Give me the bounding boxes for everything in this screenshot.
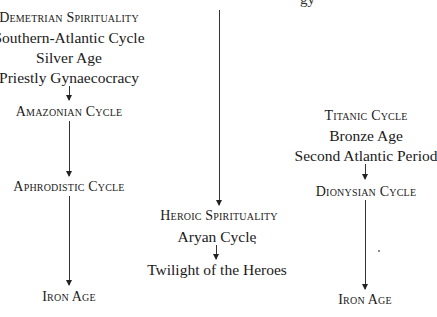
down-arrow-icon <box>219 10 220 205</box>
silver-age-label: Silver Age <box>36 50 102 66</box>
second-atlantic-period-label: Second Atlantic Period <box>295 148 437 164</box>
print-speck <box>254 242 256 244</box>
southern-atlantic-cycle-label: Southern-Atlantic Cycle <box>0 30 145 46</box>
priestly-gynaecocracy-label: Priestly Gynaecocracy <box>0 70 139 86</box>
twilight-of-the-heroes-label: Twilight of the Heroes <box>147 262 287 278</box>
iron-age-label-right: Iron Age <box>338 293 392 307</box>
down-arrow-icon <box>69 196 70 285</box>
aphrodistic-cycle-label: Aphrodistic Cycle <box>13 180 124 194</box>
down-arrow-icon <box>69 86 70 100</box>
bronze-age-label: Bronze Age <box>329 128 403 144</box>
aryan-cycle-label: Aryan Cycle <box>178 229 257 245</box>
cut-off-text: gy <box>300 0 315 8</box>
down-arrow-icon <box>365 164 366 179</box>
iron-age-label-left: Iron Age <box>42 290 96 304</box>
down-arrow-icon <box>69 121 70 176</box>
heroic-spirituality-label: Heroic Spirituality <box>160 209 277 223</box>
down-arrow-icon <box>216 245 217 259</box>
down-arrow-icon <box>365 200 366 289</box>
dionysian-cycle-label: Dionysian Cycle <box>316 185 416 199</box>
print-speck <box>378 250 380 252</box>
amazonian-cycle-label: Amazonian Cycle <box>16 105 123 119</box>
titanic-cycle-label: Titanic Cycle <box>324 109 407 123</box>
demetrian-spirituality-label: Demetrian Spirituality <box>0 11 139 25</box>
